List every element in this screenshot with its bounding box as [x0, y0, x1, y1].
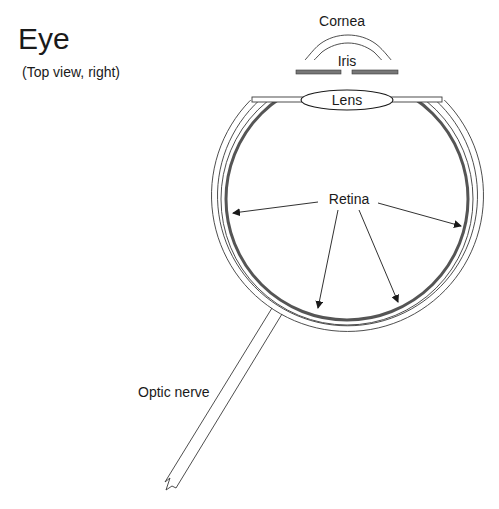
- iris-label: Iris: [338, 53, 357, 69]
- retina-label: Retina: [329, 191, 370, 207]
- lens-label: Lens: [332, 92, 362, 108]
- optic-nerve-label: Optic nerve: [138, 384, 210, 400]
- cornea-label: Cornea: [319, 13, 365, 29]
- eye-diagram: Cornea Iris Lens Retina Optic nerve: [0, 0, 499, 509]
